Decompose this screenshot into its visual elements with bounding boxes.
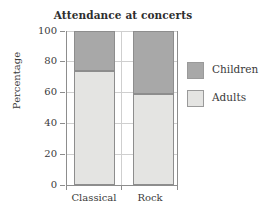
y-tick-mark-80 [60,61,65,62]
plot-area [66,31,178,185]
legend-swatch-adults-icon [187,90,204,107]
y-tick-mark-60 [60,92,65,93]
chart-title: Attendance at concerts [48,9,198,21]
bar-segment-rock-adults [133,94,174,185]
y-tick-label-80: 80 [14,56,57,66]
y-axis-title: Percentage [11,41,22,121]
x-tick-mark-middle [121,185,122,190]
y-tick-mark-100 [60,31,65,32]
y-tick-mark-40 [60,123,65,124]
x-label-rock: Rock [115,192,185,203]
y-tick-label-60: 60 [14,87,57,97]
y-tick-mark-20 [60,154,65,155]
category-separator-gridline [121,31,122,185]
y-tick-label-40: 40 [14,118,57,128]
y-axis-line [66,31,67,186]
legend-label-children: Children [212,63,258,75]
x-tick-mark-right [177,185,178,190]
bar-segment-classical-children [74,31,115,71]
bar-classical [74,31,115,185]
y-tick-label-100: 100 [14,26,57,36]
chart-container: Attendance at concerts Percentage 100 80… [0,0,267,212]
x-axis-line [66,185,178,186]
x-tick-mark-left [66,185,67,190]
y-tick-mark-0 [60,185,65,186]
legend-swatch-children-icon [187,62,204,79]
bar-rock [133,31,174,185]
plot-right-border [177,31,178,186]
y-tick-label-0: 0 [14,180,57,190]
y-tick-label-20: 20 [14,149,57,159]
bar-segment-rock-children [133,31,174,94]
bar-segment-classical-adults [74,71,115,185]
legend-label-adults: Adults [212,91,246,103]
